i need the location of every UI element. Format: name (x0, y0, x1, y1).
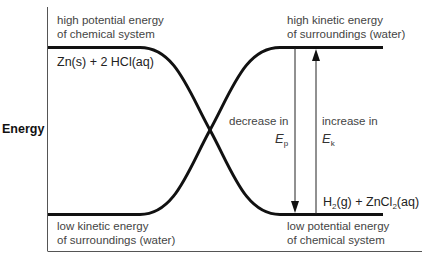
increase-label: increase in (322, 115, 378, 127)
y-axis-label: Energy (2, 122, 44, 136)
top-left-label-line2: of chemical system (57, 28, 155, 40)
top-right-label-line1: high kinetic energy (287, 14, 383, 26)
decrease-label: decrease in (229, 115, 288, 127)
ek-symbol: Ek (322, 131, 336, 148)
top-right-label-line2: of surroundings (water) (287, 28, 405, 40)
arrow-up-icon (312, 49, 320, 61)
ep-symbol: Ep (275, 131, 289, 148)
bottom-left-label-line2: of surroundings (water) (57, 234, 175, 246)
potential-energy-curve (48, 48, 383, 215)
energy-diagram: Energy high potential energy of chemical… (0, 0, 422, 257)
reactants-equation: Zn(s) + 2 HCl(aq) (57, 55, 154, 69)
arrow-down-icon (291, 201, 299, 213)
products-equation: H2(g) + ZnCl2(aq) (323, 195, 419, 211)
bottom-right-label-line2: of chemical system (287, 234, 385, 246)
bottom-left-label-line1: low kinetic energy (57, 220, 149, 232)
bottom-right-label-line1: low potential energy (287, 220, 390, 232)
kinetic-energy-curve (48, 48, 383, 215)
top-left-label-line1: high potential energy (57, 14, 164, 26)
